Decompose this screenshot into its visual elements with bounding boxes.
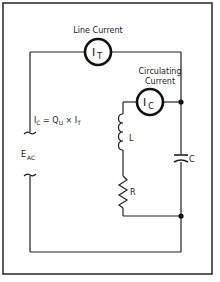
capacitor-symbol [174, 154, 188, 162]
capacitor-label: C [189, 155, 195, 164]
circulating-current-label-line1: Circulating [138, 67, 181, 76]
line-current-label: Line Current [73, 26, 122, 35]
resistor-label: R [130, 188, 136, 197]
inductor-branch [119, 102, 182, 216]
circulating-current-label-line2: Current [145, 77, 175, 86]
resistor-zigzag [119, 176, 127, 208]
inductor-label: L [129, 134, 134, 143]
equation-label: IC = QU × IT [34, 116, 81, 126]
circuit-diagram: Line Current IT Circulating Current IC I… [0, 0, 220, 282]
source-label: EAC [21, 150, 35, 161]
junction-dot-top [178, 99, 183, 104]
inductor-coil [119, 114, 124, 150]
junction-dot-bottom [178, 213, 183, 218]
